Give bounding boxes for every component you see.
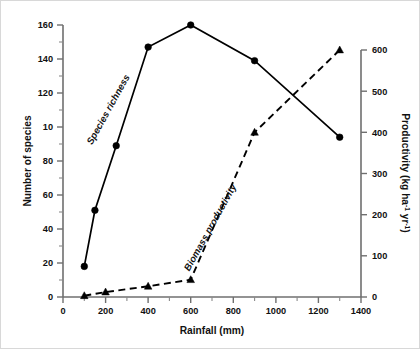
y-axis-left-labels: 0 20 40 60 80 10 120 140 160: [38, 20, 53, 302]
series-layer: [80, 22, 343, 299]
y-ticklabel-40: 40: [43, 224, 53, 234]
y2-ticklabel-600: 600: [372, 45, 387, 55]
data-point: [187, 276, 195, 283]
chart-figure: 0 20 40 60 80 10 120 140 160: [0, 0, 420, 349]
y-ticklabel-20: 20: [43, 258, 53, 268]
data-point: [145, 44, 152, 51]
y2-ticklabel-300: 300: [372, 169, 387, 179]
x-ticklabel-400: 400: [140, 306, 155, 316]
y2-ticklabel-400: 400: [372, 128, 387, 138]
y-ticklabel-140: 140: [38, 54, 53, 64]
x-axis-ticks: [63, 297, 361, 303]
x-ticklabel-0: 0: [60, 306, 65, 316]
annotation-species-richness: Species richness: [84, 72, 132, 146]
y-ticklabel-80: 80: [43, 156, 53, 166]
annotation-biomass-productivity: Biomass productivity: [181, 181, 238, 272]
x-ticklabel-1400: 1400: [351, 306, 371, 316]
y-ticklabel-100: 10: [43, 122, 53, 132]
y2-axis-title: Productivity (kg ha-1 yr-1): [400, 113, 411, 232]
data-point: [113, 142, 120, 149]
data-point: [92, 207, 99, 214]
data-point: [251, 57, 258, 64]
x-ticklabel-1200: 1200: [308, 306, 328, 316]
data-point: [251, 128, 259, 135]
y-axis-right-ticks: [361, 50, 367, 297]
x-ticklabel-800: 800: [226, 306, 241, 316]
x-ticklabel-1000: 1000: [266, 306, 286, 316]
x-ticklabel-600: 600: [183, 306, 198, 316]
y-ticklabel-0: 0: [48, 292, 53, 302]
y2-title-middle: yr: [400, 211, 411, 223]
y2-ticklabel-100: 100: [372, 251, 387, 261]
y-ticklabel-160: 160: [38, 20, 53, 30]
y-axis-left-ticks: [57, 25, 63, 297]
y-axis-right-labels: 0 100 200 300 400 500 600: [372, 45, 387, 302]
y-ticklabel-60: 60: [43, 190, 53, 200]
y2-title-prefix: Productivity (kg ha: [400, 113, 411, 205]
data-point: [81, 263, 88, 270]
data-point: [336, 46, 344, 53]
data-point: [336, 134, 343, 141]
y2-title-suffix: ): [400, 229, 411, 232]
axes-group: [63, 25, 361, 297]
x-ticklabel-200: 200: [98, 306, 113, 316]
x-axis-title: Rainfall (mm): [180, 325, 245, 336]
y2-ticklabel-500: 500: [372, 87, 387, 97]
y2-ticklabel-0: 0: [372, 292, 377, 302]
x-axis-labels: 0 200 400 600 800 1000 1200 1400: [60, 306, 371, 316]
y2-ticklabel-200: 200: [372, 210, 387, 220]
y-axis-title: Number of species: [22, 115, 33, 206]
y-ticklabel-120: 120: [38, 88, 53, 98]
chart-plot-area: 0 20 40 60 80 10 120 140 160: [1, 1, 420, 349]
data-point: [187, 22, 194, 29]
